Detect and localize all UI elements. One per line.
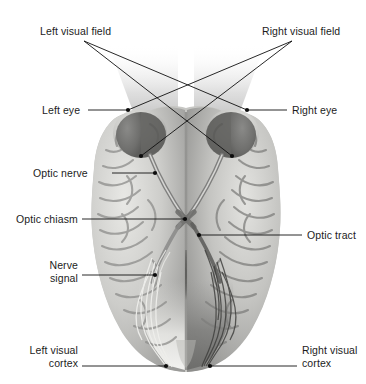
label-right-eye: Right eye: [292, 104, 337, 117]
label-left-visual-field: Left visual field: [40, 25, 111, 38]
dot-optic-nerve: [153, 171, 157, 175]
label-left-visual-cortex: Left visual cortex: [14, 344, 78, 369]
dot-optic-chiasm: [183, 217, 187, 221]
dot-right-visual-cortex: [208, 364, 212, 368]
label-left-eye: Left eye: [42, 104, 80, 117]
dot-optic-tract: [197, 233, 201, 237]
label-right-visual-cortex: Right visual cortex: [302, 344, 366, 369]
label-left-visual-cortex-line1: Left visual: [30, 344, 78, 356]
dot-nerve-signal: [153, 273, 157, 277]
label-nerve-signal-line1: Nerve: [49, 259, 78, 271]
dot-right-eye: [245, 108, 249, 112]
label-optic-nerve: Optic nerve: [33, 167, 88, 180]
visual-pathway-illustration: [0, 0, 366, 384]
label-right-visual-cortex-line1: Right visual: [302, 344, 357, 356]
label-left-visual-cortex-line2: cortex: [49, 357, 78, 369]
label-right-visual-cortex-line2: cortex: [302, 357, 331, 369]
label-optic-tract: Optic tract: [307, 229, 356, 242]
dot-left-visual-cortex: [164, 364, 168, 368]
label-nerve-signal-line2: signal: [50, 272, 78, 284]
dot-right-retina: [230, 154, 234, 158]
diagram-canvas: Left visual field Right visual field Lef…: [0, 0, 366, 384]
label-right-visual-field: Right visual field: [262, 25, 340, 38]
dot-left-retina: [139, 154, 143, 158]
label-optic-chiasm: Optic chiasm: [16, 213, 78, 226]
brain-illustration: [91, 106, 280, 372]
longitudinal-fissure: [184, 112, 188, 370]
dot-left-eye: [126, 108, 130, 112]
label-nerve-signal: Nerve signal: [18, 259, 78, 284]
